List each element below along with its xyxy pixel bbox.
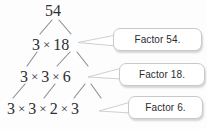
callout-factor-18-label: Factor 18. <box>139 69 185 80</box>
branch-54-to-3 <box>40 20 52 34</box>
tree-node-l2-6: 6 <box>63 69 71 85</box>
tree-node-l2-3b: 3 <box>41 69 49 85</box>
tree-node-l3-3b: 3 <box>28 101 36 117</box>
callout-factor-18[interactable]: Factor 18. <box>119 63 205 86</box>
factor-tree-diagram: 54 3 × 18 3 × 3 × 6 3 × 3 × 2 × 3 Factor… <box>0 0 207 129</box>
tree-node-54: 54 <box>45 3 61 19</box>
callout-factor-6[interactable]: Factor 6. <box>128 96 203 119</box>
tree-level-2: 3 × 3 × 6 <box>20 69 71 85</box>
branch-3-carry-1 <box>27 52 37 66</box>
tree-level-0: 54 <box>45 3 61 19</box>
callout-factor-54-tail <box>78 33 118 51</box>
callout-factor-54[interactable]: Factor 54. <box>113 28 202 51</box>
tree-node-l1-3: 3 <box>32 37 40 53</box>
multiplication-icon: × <box>39 102 46 115</box>
branch-l2-3a-carry <box>13 84 25 98</box>
tree-node-l3-3c: 3 <box>71 101 79 117</box>
branch-l2-3b-carry <box>44 84 55 98</box>
callout-factor-54-label: Factor 54. <box>134 34 180 45</box>
tree-node-l3-3a: 3 <box>7 101 15 117</box>
tree-level-3: 3 × 3 × 2 × 3 <box>7 101 79 117</box>
multiplication-icon: × <box>52 70 59 83</box>
multiplication-icon: × <box>61 102 68 115</box>
tree-node-l2-3a: 3 <box>20 69 28 85</box>
tree-level-1: 3 × 18 <box>32 37 69 53</box>
multiplication-icon: × <box>18 102 25 115</box>
branch-54-to-18 <box>59 20 71 34</box>
branch-18-to-6 <box>77 52 88 66</box>
tree-node-l1-18: 18 <box>53 37 69 53</box>
multiplication-icon: × <box>43 38 50 51</box>
multiplication-icon: × <box>31 70 38 83</box>
branch-6-to-3 <box>91 84 101 98</box>
branch-6-to-2 <box>74 84 85 98</box>
branch-18-to-3 <box>57 52 70 66</box>
callout-factor-6-label: Factor 6. <box>145 102 185 113</box>
tree-node-l3-2: 2 <box>50 101 58 117</box>
